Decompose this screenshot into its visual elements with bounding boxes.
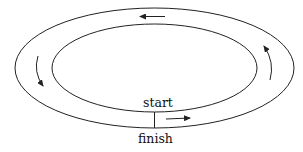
finish-label: finish bbox=[138, 133, 173, 146]
start-label: start bbox=[143, 97, 173, 110]
arrow-left-icon bbox=[36, 56, 43, 86]
outer-track-edge bbox=[15, 8, 294, 128]
arrow-right-icon bbox=[264, 46, 272, 80]
track-diagram bbox=[0, 0, 303, 152]
arrow-bottom-icon bbox=[166, 118, 190, 119]
